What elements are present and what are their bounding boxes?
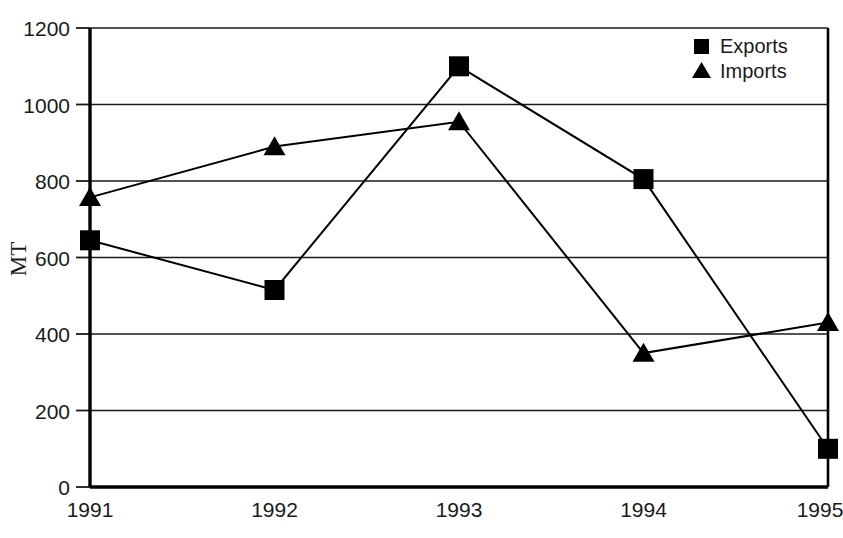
x-tick-labels: 1991 1992 1993 1994 1995 [67, 498, 843, 521]
line-chart: 1200 1000 800 600 400 200 0 MT 1991 1992… [0, 0, 843, 538]
y-tick-label-0: 0 [58, 476, 70, 499]
y-axis-title: MT [6, 242, 31, 277]
data-point-square-marker[interactable]: Exports 1994: 805 [634, 169, 654, 189]
y-axis-ticks [76, 28, 90, 487]
y-tick-label-400: 400 [35, 323, 70, 346]
x-tick-label-1992: 1992 [251, 498, 298, 521]
y-tick-label-1000: 1000 [23, 94, 70, 117]
y-tick-label-600: 600 [35, 247, 70, 270]
x-tick-label-1994: 1994 [620, 498, 667, 521]
y-tick-label-800: 800 [35, 170, 70, 193]
data-point-square-marker[interactable]: Exports 1992: 515 [265, 280, 285, 300]
chart-figure: 1200 1000 800 600 400 200 0 MT 1991 1992… [0, 0, 843, 538]
legend-label-exports: Exports [720, 35, 788, 57]
x-tick-label-1991: 1991 [67, 498, 114, 521]
x-tick-label-1993: 1993 [436, 498, 483, 521]
y-tick-label-1200: 1200 [23, 17, 70, 40]
x-tick-label-1995: 1995 [797, 498, 843, 521]
data-point-square-marker[interactable]: Exports 1991: 645 [80, 230, 100, 250]
data-point-square-marker[interactable]: Exports 1993: 1100 [449, 56, 469, 76]
legend-label-imports: Imports [720, 60, 787, 82]
y-tick-label-200: 200 [35, 400, 70, 423]
square-marker-icon [694, 39, 709, 54]
data-point-square-marker[interactable]: Exports 1995: 100 [818, 439, 838, 459]
